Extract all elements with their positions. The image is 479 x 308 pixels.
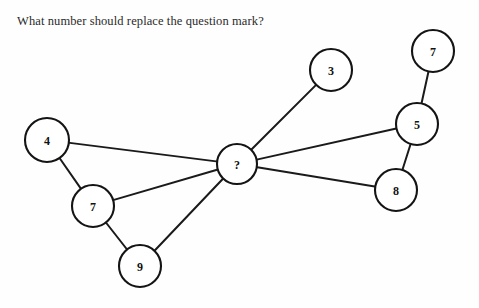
graph-node[interactable]: 3 <box>310 49 352 91</box>
graph-node[interactable]: 7 <box>412 30 454 72</box>
graph-edge <box>154 178 224 252</box>
puzzle-container: What number should replace the question … <box>0 0 479 308</box>
node-label: 7 <box>90 200 96 214</box>
graph-node[interactable]: 8 <box>375 169 417 211</box>
graph-edge <box>250 84 316 150</box>
graph-diagram: 479?3758 <box>0 0 479 308</box>
graph-edge <box>112 169 219 200</box>
graph-node[interactable]: ? <box>217 144 257 184</box>
graph-edge <box>105 222 127 251</box>
nodes-group: 479?3758 <box>25 30 454 287</box>
graph-edge <box>256 167 377 187</box>
node-label-question-mark: ? <box>234 158 240 172</box>
graph-node[interactable]: 9 <box>119 245 161 287</box>
graph-edge <box>402 143 411 171</box>
node-label: 3 <box>328 64 334 78</box>
node-label: 8 <box>393 184 399 198</box>
graph-node[interactable]: 7 <box>72 185 114 227</box>
graph-node[interactable]: 4 <box>25 118 69 162</box>
node-label: 9 <box>137 260 143 274</box>
node-label: 5 <box>414 118 420 132</box>
graph-edge <box>421 71 428 105</box>
graph-edge <box>256 128 398 160</box>
node-label: 7 <box>430 45 436 59</box>
graph-edge <box>68 143 218 162</box>
node-label: 4 <box>44 134 50 148</box>
graph-node[interactable]: 5 <box>396 103 438 145</box>
graph-edge <box>59 157 82 189</box>
